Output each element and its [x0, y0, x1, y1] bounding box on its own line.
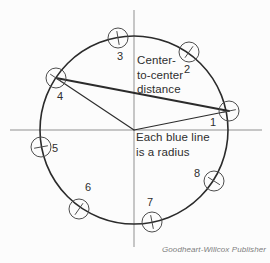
hole-number-label-8: 8 [194, 167, 200, 179]
hole-number-label-6: 6 [85, 181, 91, 193]
diagram-canvas: 12345678 [0, 0, 270, 263]
hole-number-label-5: 5 [52, 142, 58, 154]
hole-number-label-3: 3 [117, 50, 123, 62]
hole-number-label-2: 2 [184, 63, 190, 75]
center-to-center-distance-label: Center- to-center distance [137, 53, 183, 97]
hole-number-label-4: 4 [57, 90, 63, 102]
hole-number-label-1: 1 [210, 116, 216, 128]
hole-number-label-7: 7 [147, 196, 153, 208]
bolt-circle-diagram: 12345678 Center- to-center distance Each… [0, 0, 270, 263]
publisher-attribution: Goodheart-Willcox Publisher [162, 245, 266, 254]
radius-note-label: Each blue line is a radius [136, 130, 210, 159]
